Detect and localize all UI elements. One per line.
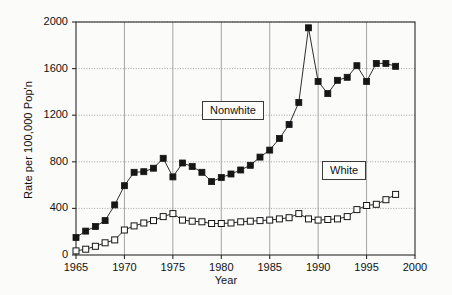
data-point-white (267, 217, 273, 223)
data-point-white (141, 220, 147, 226)
data-point-nonwhite (73, 235, 79, 241)
data-point-white (306, 216, 312, 222)
x-axis-title: Year (196, 274, 256, 286)
data-point-nonwhite (112, 202, 118, 208)
data-point-white (189, 218, 195, 224)
data-point-white (131, 223, 137, 229)
data-point-white (276, 216, 282, 222)
data-point-nonwhite (393, 63, 399, 69)
data-point-white (199, 219, 205, 225)
data-point-white (383, 197, 389, 203)
data-point-white (335, 216, 341, 222)
data-point-white (325, 217, 331, 223)
data-point-nonwhite (373, 60, 379, 66)
x-tick-label: 1970 (102, 261, 146, 273)
data-point-white (73, 248, 79, 254)
x-tick-label: 2000 (393, 261, 437, 273)
data-point-white (102, 240, 108, 246)
x-tick-label: 1990 (296, 261, 340, 273)
data-point-white (315, 217, 321, 223)
data-point-nonwhite (267, 147, 273, 153)
data-point-nonwhite (141, 169, 147, 175)
data-point-nonwhite (151, 165, 157, 171)
x-tick-label: 1985 (248, 261, 292, 273)
x-tick-label: 1975 (151, 261, 195, 273)
data-point-white (286, 215, 292, 221)
data-point-nonwhite (354, 63, 360, 69)
y-tick-label: 800 (22, 155, 68, 167)
y-tick-label: 2000 (22, 15, 68, 27)
data-point-nonwhite (383, 60, 389, 66)
data-point-nonwhite (199, 169, 205, 175)
data-point-nonwhite (286, 122, 292, 128)
data-point-white (92, 243, 98, 249)
series-label-nonwhite: Nonwhite (202, 101, 264, 120)
data-point-nonwhite (364, 78, 370, 84)
data-point-nonwhite (180, 160, 186, 166)
data-point-white (209, 221, 215, 227)
data-point-nonwhite (209, 179, 215, 185)
chart-figure: Rate per 100,000 Pop'n Year Nonwhite Whi… (0, 0, 452, 295)
data-point-white (354, 207, 360, 213)
y-tick-label: 1200 (22, 108, 68, 120)
x-tick-label: 1965 (54, 261, 98, 273)
data-point-white (228, 220, 234, 226)
data-point-white (247, 218, 253, 224)
data-point-white (121, 227, 127, 233)
data-point-white (151, 218, 157, 224)
data-point-nonwhite (83, 228, 89, 234)
data-point-nonwhite (228, 171, 234, 177)
data-point-nonwhite (335, 77, 341, 83)
series-line-nonwhite (76, 28, 396, 238)
data-point-white (344, 214, 350, 220)
plot-frame (76, 22, 415, 255)
y-tick-label: 400 (22, 201, 68, 213)
data-point-white (170, 211, 176, 217)
data-point-nonwhite (189, 164, 195, 170)
data-point-white (373, 201, 379, 207)
data-point-nonwhite (121, 183, 127, 189)
data-point-nonwhite (276, 136, 282, 142)
data-point-nonwhite (238, 167, 244, 173)
data-point-nonwhite (131, 169, 137, 175)
series-label-white: White (322, 161, 366, 180)
data-point-white (83, 246, 89, 252)
data-point-white (180, 217, 186, 223)
y-tick-label: 0 (22, 248, 68, 260)
data-point-nonwhite (102, 218, 108, 224)
y-tick-label: 1600 (22, 62, 68, 74)
data-point-nonwhite (296, 99, 302, 105)
data-point-nonwhite (247, 162, 253, 168)
data-point-white (160, 214, 166, 220)
data-point-nonwhite (218, 175, 224, 181)
data-point-white (257, 218, 263, 224)
data-point-nonwhite (325, 91, 331, 97)
data-point-nonwhite (92, 224, 98, 230)
data-point-white (296, 211, 302, 217)
data-point-white (393, 191, 399, 197)
data-point-nonwhite (170, 174, 176, 180)
data-point-white (218, 221, 224, 227)
x-tick-label: 1980 (199, 261, 243, 273)
data-point-nonwhite (257, 154, 263, 160)
data-point-white (112, 237, 118, 243)
series-line-white (76, 194, 396, 251)
data-point-nonwhite (160, 155, 166, 161)
data-point-white (364, 203, 370, 209)
data-point-nonwhite (306, 25, 312, 31)
data-point-nonwhite (344, 74, 350, 80)
x-tick-label: 1995 (345, 261, 389, 273)
data-point-nonwhite (315, 78, 321, 84)
data-point-white (238, 219, 244, 225)
